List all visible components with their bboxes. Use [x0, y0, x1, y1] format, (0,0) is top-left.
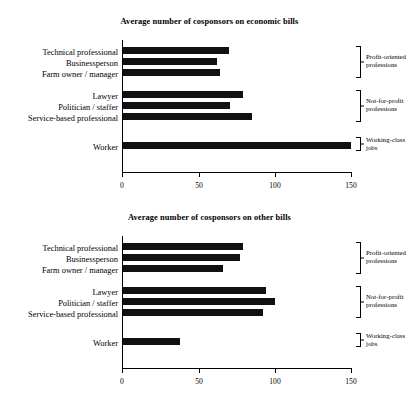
category-label-worker: Worker	[93, 143, 118, 152]
group-label-profit-oriented-line2: professions	[366, 61, 397, 68]
group-label-profit-oriented-line1: Profit-oriented	[366, 249, 406, 256]
x-tick-150	[351, 369, 352, 373]
bar-service-based-professional	[123, 309, 263, 316]
x-tick-label-50: 50	[195, 377, 203, 386]
category-label-politician-staffer: Politician / staffer	[58, 299, 118, 308]
x-tick-0	[122, 173, 123, 177]
bar-service-based-professional	[123, 113, 252, 120]
x-tick-100	[275, 369, 276, 373]
category-label-worker: Worker	[93, 339, 118, 348]
bar-technical-professional	[123, 47, 229, 54]
category-label-column-other: Technical professional Businessperson Fa…	[0, 236, 118, 369]
bar-farm-owner-manager	[123, 69, 220, 76]
x-tick-label-100: 100	[269, 377, 280, 386]
category-label-lawyer: Lawyer	[92, 92, 118, 101]
x-axis-line	[122, 172, 352, 173]
group-label-working-class: Working-class jobs	[366, 332, 405, 349]
x-axis-line	[122, 368, 352, 369]
group-label-profit-oriented: Profit-oriented professions	[366, 249, 406, 266]
category-label-technical-professional: Technical professional	[43, 48, 118, 57]
x-tick-label-50: 50	[195, 181, 203, 190]
group-bracket-column-economic: Profit-oriented professions Not-for-prof…	[356, 40, 419, 173]
x-tick-label-0: 0	[120, 181, 124, 190]
category-label-service-based-professional: Service-based professional	[28, 310, 118, 319]
group-label-profit-oriented: Profit-oriented professions	[366, 53, 406, 70]
group-label-not-for-profit-line2: professions	[366, 105, 397, 112]
bar-farm-owner-manager	[123, 265, 223, 272]
x-tick-label-100: 100	[269, 181, 280, 190]
group-label-not-for-profit: Not-for-profit professions	[366, 293, 404, 310]
chart-title-other: Average number of cosponsors on other bi…	[0, 212, 419, 223]
x-tick-150	[351, 173, 352, 177]
group-label-not-for-profit-line1: Not-for-profit	[366, 97, 404, 104]
x-tick-0	[122, 369, 123, 373]
x-tick-label-150: 150	[345, 181, 356, 190]
group-label-working-class: Working-class jobs	[366, 136, 405, 153]
group-label-not-for-profit-line1: Not-for-profit	[366, 293, 404, 300]
plot-area-other: 0 50 100 150	[122, 236, 352, 369]
bar-worker	[123, 338, 180, 345]
bar-technical-professional	[123, 243, 243, 250]
plot-area-economic: 0 50 100 150	[122, 40, 352, 173]
category-label-column-economic: Technical professional Businessperson Fa…	[0, 40, 118, 173]
bar-worker	[123, 142, 351, 149]
x-tick-50	[199, 369, 200, 373]
category-label-farm-owner-manager: Farm owner / manager	[42, 266, 118, 275]
chart-page: Average number of cosponsors on economic…	[0, 0, 419, 393]
group-bracket-tick-working-class	[361, 340, 364, 341]
bar-politician-staffer	[123, 102, 230, 109]
group-label-profit-oriented-line1: Profit-oriented	[366, 53, 406, 60]
group-label-working-class-line1: Working-class	[366, 136, 405, 143]
category-label-politician-staffer: Politician / staffer	[58, 103, 118, 112]
category-label-farm-owner-manager: Farm owner / manager	[42, 70, 118, 79]
group-bracket-tick-profit-oriented	[361, 258, 364, 259]
group-bracket-tick-working-class	[361, 144, 364, 145]
group-label-profit-oriented-line2: professions	[366, 257, 397, 264]
category-label-service-based-professional: Service-based professional	[28, 114, 118, 123]
group-bracket-column-other: Profit-oriented professions Not-for-prof…	[356, 236, 419, 369]
group-bracket-tick-not-for-profit	[361, 302, 364, 303]
bar-businessperson	[123, 58, 217, 65]
group-label-working-class-line1: Working-class	[366, 332, 405, 339]
x-tick-100	[275, 173, 276, 177]
group-label-working-class-line2: jobs	[366, 340, 377, 347]
chart-panel-other: Average number of cosponsors on other bi…	[0, 196, 419, 393]
bar-businessperson	[123, 254, 240, 261]
group-bracket-tick-profit-oriented	[361, 62, 364, 63]
x-tick-label-0: 0	[120, 377, 124, 386]
bar-lawyer	[123, 91, 243, 98]
group-label-not-for-profit: Not-for-profit professions	[366, 97, 404, 114]
category-label-technical-professional: Technical professional	[43, 244, 118, 253]
category-label-businessperson: Businessperson	[66, 59, 118, 68]
category-label-lawyer: Lawyer	[92, 288, 118, 297]
x-tick-label-150: 150	[345, 377, 356, 386]
bar-lawyer	[123, 287, 266, 294]
category-label-businessperson: Businessperson	[66, 255, 118, 264]
group-bracket-tick-not-for-profit	[361, 106, 364, 107]
group-label-working-class-line2: jobs	[366, 144, 377, 151]
group-label-not-for-profit-line2: professions	[366, 301, 397, 308]
bar-politician-staffer	[123, 298, 275, 305]
chart-title-economic: Average number of cosponsors on economic…	[0, 16, 419, 27]
x-tick-50	[199, 173, 200, 177]
chart-panel-economic: Average number of cosponsors on economic…	[0, 0, 419, 196]
